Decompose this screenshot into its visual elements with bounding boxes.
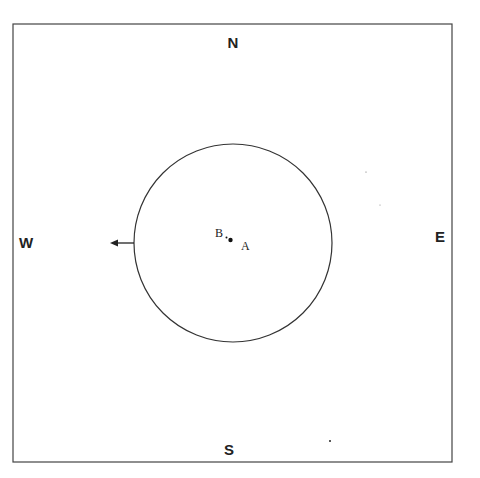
west-arrow-icon [110,240,134,247]
frame-border [13,24,452,462]
compass-diagram: N S W E B A [0,0,480,478]
orbit-circle [134,144,332,342]
point-a-label: A [241,239,250,253]
west-label: W [19,234,34,251]
point-b-dot [226,237,228,239]
speck [379,204,380,205]
south-label: S [224,441,234,458]
point-b-label: B [215,226,223,240]
east-label: E [435,228,445,245]
north-label: N [228,34,239,51]
speck [329,440,331,442]
speck [365,171,366,172]
point-a-dot [228,238,232,242]
